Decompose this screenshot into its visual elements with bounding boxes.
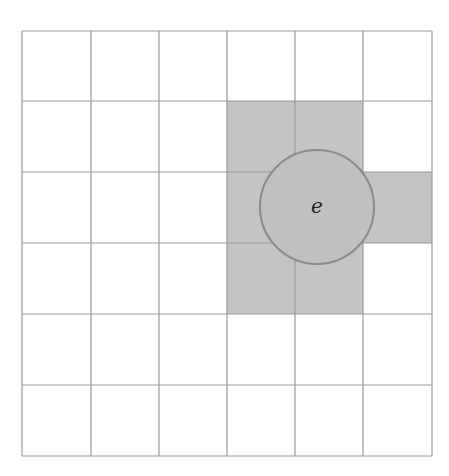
grid-diagram: e (0, 0, 449, 476)
grid-lines (22, 31, 432, 456)
circle-label: e (311, 194, 323, 218)
